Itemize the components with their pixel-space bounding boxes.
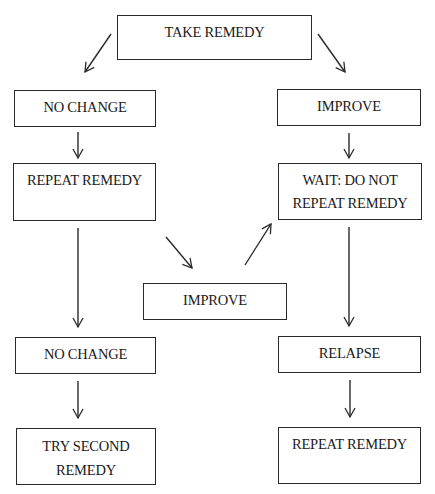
node-label-line2: REPEAT REMEDY xyxy=(279,192,421,215)
arrows-layer xyxy=(0,0,435,494)
node-repeat-remedy-1: REPEAT REMEDY xyxy=(13,163,156,221)
node-label: TAKE REMEDY xyxy=(118,22,311,42)
node-label: RELAPSE xyxy=(279,343,420,363)
arrow-take-to-improve xyxy=(318,34,345,72)
arrow-repeat-to-improve-mid xyxy=(166,237,192,268)
node-label: IMPROVE xyxy=(278,96,420,116)
node-improve-1: IMPROVE xyxy=(277,89,421,126)
node-label-line1: WAIT: DO NOT xyxy=(279,169,421,192)
node-try-second-remedy: TRY SECOND REMEDY xyxy=(16,428,156,485)
node-label: REPEAT REMEDY xyxy=(14,170,155,190)
node-label: IMPROVE xyxy=(144,290,286,310)
node-no-change-1: NO CHANGE xyxy=(14,90,156,127)
arrow-improve-mid-to-wait xyxy=(245,224,271,265)
arrow-take-to-nochange xyxy=(85,34,111,72)
node-repeat-remedy-2: REPEAT REMEDY xyxy=(278,427,421,484)
node-label-line1: TRY SECOND xyxy=(17,434,155,458)
node-label-line2: REMEDY xyxy=(17,458,155,482)
node-relapse: RELAPSE xyxy=(278,336,421,373)
node-wait: WAIT: DO NOT REPEAT REMEDY xyxy=(278,163,422,220)
node-take-remedy: TAKE REMEDY xyxy=(117,15,312,60)
node-improve-2: IMPROVE xyxy=(143,283,287,320)
node-no-change-2: NO CHANGE xyxy=(15,337,156,374)
node-label: REPEAT REMEDY xyxy=(279,434,420,454)
node-label: NO CHANGE xyxy=(16,344,155,364)
node-label: NO CHANGE xyxy=(15,97,155,117)
